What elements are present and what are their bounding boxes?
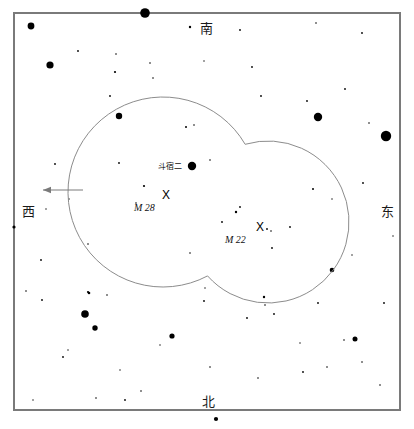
star-dot (140, 8, 150, 18)
star-dot (266, 228, 268, 230)
star-dot (45, 208, 46, 209)
star-dot (159, 344, 160, 345)
star-dot (239, 29, 241, 31)
object-label-m22: M 22 (225, 235, 246, 245)
star-dot (185, 126, 187, 128)
star-dot (263, 296, 265, 298)
star-dot (115, 53, 117, 55)
star-chart: 南 西 东 北 斗宿二 M 28 X M 22 X (0, 0, 414, 429)
star-dot (209, 366, 211, 368)
star-dot (87, 291, 89, 293)
star-dot (314, 113, 322, 121)
star-dot (343, 339, 345, 341)
star-dot (209, 159, 211, 161)
star-dot (41, 299, 43, 301)
star-dot (116, 113, 122, 119)
star-dot (270, 230, 272, 232)
star-dot (315, 22, 317, 24)
star-dot (257, 377, 259, 379)
star-dot (214, 417, 218, 421)
star-dot (392, 235, 393, 236)
star-dot (379, 384, 381, 386)
star-dot (361, 32, 363, 34)
star-dot (271, 247, 273, 249)
star-dot (289, 226, 291, 228)
star-dot (221, 221, 223, 223)
star-dot (62, 356, 64, 358)
star-dot (239, 206, 241, 208)
star-dot (361, 361, 363, 363)
star-dot (362, 182, 364, 184)
star-dot (143, 185, 145, 187)
star-dot (114, 71, 116, 73)
star-dot (152, 77, 154, 79)
star-dot (81, 310, 89, 318)
star-dot (124, 399, 126, 401)
star-dot (331, 198, 332, 199)
star-dot (140, 390, 142, 392)
star-dot (106, 294, 108, 296)
star-dot (203, 300, 205, 302)
star-dot (302, 371, 304, 373)
star-dot (260, 95, 262, 97)
star-dot (351, 254, 352, 255)
star-dot (299, 342, 300, 343)
star-dot (40, 259, 42, 261)
star-dot (317, 302, 319, 304)
chart-frame (14, 13, 400, 410)
star-dot (77, 50, 79, 52)
star-dot (32, 399, 33, 400)
star-dot (109, 95, 111, 97)
object-marker-m22: X (256, 221, 264, 233)
star-dot (204, 287, 205, 288)
star-dot (95, 397, 97, 399)
star-dot (381, 131, 391, 141)
star-dot (306, 100, 308, 102)
star-dot (235, 211, 237, 213)
star-dot (368, 122, 370, 124)
star-dot (246, 317, 248, 319)
star-dot (383, 302, 385, 304)
object-marker-m28: X (162, 189, 170, 201)
sky-canvas (0, 0, 414, 429)
direction-label-south: 南 (200, 22, 213, 35)
star-dot (46, 61, 53, 68)
star-dot (149, 62, 151, 64)
star-label-douxiuer: 斗宿二 (158, 163, 182, 171)
star-dot (326, 366, 328, 368)
star-dot (203, 60, 204, 61)
star-dot (312, 188, 314, 190)
direction-label-west: 西 (22, 205, 35, 218)
star-dot (193, 124, 195, 126)
star-dot (273, 313, 275, 315)
star-dot (353, 337, 358, 342)
direction-label-east: 东 (381, 205, 394, 218)
star-dot (189, 252, 191, 254)
star-dot (344, 88, 346, 90)
star-dot (169, 333, 174, 338)
star-dot (87, 243, 89, 245)
star-dot (67, 349, 68, 350)
star-dot (54, 163, 56, 165)
star-dot (28, 23, 35, 30)
star-dot (12, 225, 15, 228)
star-dot (189, 26, 191, 28)
star-dot (25, 290, 27, 292)
object-label-m28: M 28 (134, 203, 155, 213)
star-dot (251, 66, 253, 68)
star-dot (119, 369, 120, 370)
star-dot (188, 162, 196, 170)
star-dot (92, 325, 97, 330)
star-dot (118, 162, 120, 164)
direction-label-north: 北 (202, 395, 215, 408)
star-dot (264, 304, 266, 306)
